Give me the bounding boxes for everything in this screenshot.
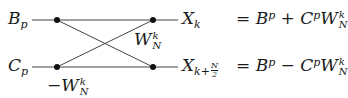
twiddle-lower: −W k N — [47, 77, 88, 97]
subscript-n: N — [152, 41, 161, 51]
subscript-p: p — [21, 18, 28, 31]
minus-sign: − — [281, 57, 295, 74]
twiddle-indices: k N — [339, 57, 348, 77]
twiddle-indices: k N — [339, 10, 348, 30]
output-label-xk: Xk — [182, 10, 201, 30]
subscript-k-plus: k+ — [194, 65, 210, 78]
plus-sign: + — [281, 10, 295, 27]
subscript-p: p — [313, 57, 320, 68]
twiddle-upper: W k N — [134, 31, 161, 51]
subscript-n: N — [339, 20, 348, 30]
equals-sign: = — [236, 10, 250, 27]
symbol-x: X — [182, 8, 194, 28]
fraction-denominator: 2 — [211, 71, 218, 79]
subscript-p: p — [268, 10, 275, 21]
symbol-b: B — [256, 57, 269, 74]
subscript-n: N — [339, 67, 348, 77]
symbol-b: B — [256, 10, 269, 27]
symbol-w: W — [134, 31, 151, 48]
equation-lower: = Bp − CpW k N — [236, 57, 348, 77]
subscript-p: p — [21, 65, 28, 78]
subscript-p: p — [313, 10, 320, 21]
input-label-bp: Bp — [8, 10, 28, 30]
twiddle-indices: k N — [152, 31, 161, 51]
symbol-c: C — [8, 55, 21, 75]
fraction-n-over-2: N2 — [211, 62, 218, 79]
subscript-p: p — [268, 57, 275, 68]
symbol-c: C — [300, 10, 313, 27]
node-top-left — [54, 17, 60, 23]
subscript-k: k — [194, 18, 201, 31]
node-top-right — [150, 17, 156, 23]
symbol-w: W — [320, 10, 337, 27]
symbol-w: W — [320, 57, 337, 74]
input-label-cp: Cp — [8, 57, 28, 77]
minus-sign: − — [47, 77, 61, 94]
symbol-b: B — [8, 8, 21, 28]
twiddle-indices: k N — [80, 77, 89, 97]
subscript-n: N — [80, 87, 89, 97]
equals-sign: = — [236, 57, 250, 74]
symbol-c: C — [300, 57, 313, 74]
symbol-x: X — [182, 55, 194, 75]
symbol-w: W — [61, 77, 78, 94]
output-label-xk-n2: Xk+N2 — [182, 57, 218, 79]
node-bottom-right — [150, 64, 156, 70]
equation-upper: = Bp + CpW k N — [236, 10, 348, 30]
node-bottom-left — [54, 64, 60, 70]
